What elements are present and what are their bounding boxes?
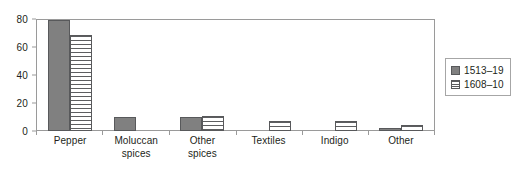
x-label-line: Other — [169, 135, 235, 148]
bar-chart: 80 60 40 20 0 — [0, 0, 524, 179]
legend-label: 1608–10 — [464, 79, 504, 90]
legend-swatch-icon — [451, 66, 460, 75]
x-label-line: Other — [368, 135, 434, 148]
x-label-line: Pepper — [37, 135, 103, 148]
bar-1608-10 — [70, 35, 92, 131]
x-label-line: Moluccan — [103, 135, 169, 148]
x-axis-labels: Pepper Moluccan spices Other spices Text… — [37, 135, 434, 179]
x-label-line: spices — [103, 148, 169, 161]
bars-layer — [37, 20, 434, 131]
bar-group-other-spices — [169, 20, 235, 131]
bar-1513-19 — [114, 117, 136, 131]
x-label-pepper: Pepper — [37, 135, 103, 148]
y-axis: 80 60 40 20 0 — [0, 19, 36, 131]
legend-label: 1513–19 — [464, 65, 504, 76]
y-tick-label-40: 40 — [16, 70, 28, 81]
y-tick-label-0: 0 — [22, 126, 28, 137]
bar-group-indigo — [302, 20, 368, 131]
x-label-line: Textiles — [236, 135, 302, 148]
legend-item-1513-19: 1513–19 — [451, 63, 504, 77]
y-tick-label-80: 80 — [16, 14, 28, 25]
bar-1513-19 — [180, 117, 202, 131]
bar-group-textiles — [236, 20, 302, 131]
x-label-indigo: Indigo — [302, 135, 368, 148]
x-label-moluccan-spices: Moluccan spices — [103, 135, 169, 160]
x-label-line: spices — [169, 148, 235, 161]
bar-group-other — [368, 20, 434, 131]
y-tick-label-60: 60 — [16, 42, 28, 53]
legend: 1513–19 1608–10 — [445, 58, 511, 96]
bar-1608-10 — [269, 121, 291, 131]
bar-1608-10 — [335, 121, 357, 131]
legend-swatch-icon — [451, 80, 460, 89]
legend-item-1608-10: 1608–10 — [451, 77, 504, 91]
x-label-line: Indigo — [302, 135, 368, 148]
x-label-other-spices: Other spices — [169, 135, 235, 160]
x-label-textiles: Textiles — [236, 135, 302, 148]
bar-1608-10 — [202, 116, 224, 131]
bar-1513-19 — [48, 20, 70, 131]
bar-group-pepper — [37, 20, 103, 131]
bar-group-moluccan-spices — [103, 20, 169, 131]
y-tick-label-20: 20 — [16, 98, 28, 109]
x-label-other: Other — [368, 135, 434, 148]
